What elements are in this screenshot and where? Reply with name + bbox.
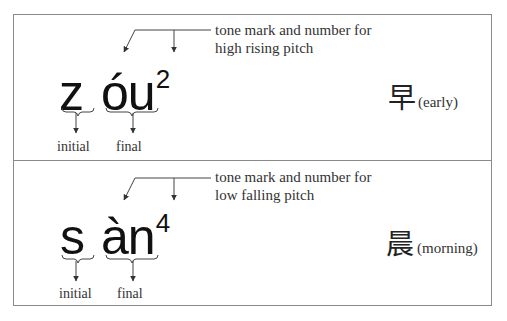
initial-brace: [62, 108, 94, 116]
arrow-to-tone-mark: [124, 178, 211, 200]
arrow-to-tone-mark: [124, 30, 211, 52]
final-brace: [106, 255, 158, 263]
annotation-lines: [0, 0, 507, 321]
final-brace: [106, 108, 158, 116]
initial-brace: [62, 255, 94, 263]
